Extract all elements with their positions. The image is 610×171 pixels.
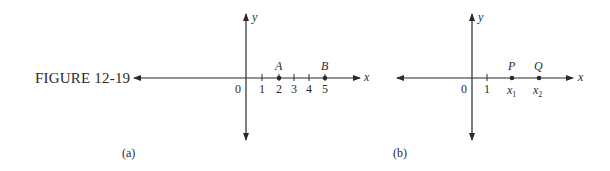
point-B xyxy=(323,76,328,81)
y-label-a: y xyxy=(252,10,257,25)
x1-label: x1 xyxy=(507,83,516,99)
y-label-b: y xyxy=(478,10,483,25)
x-label-a: x xyxy=(364,70,369,85)
point-label-A: A xyxy=(275,59,282,74)
origin-label-b: 0 xyxy=(461,82,467,97)
figure-canvas xyxy=(0,0,610,171)
tick-label: 5 xyxy=(322,82,328,97)
tick-label: 3 xyxy=(291,82,297,97)
point-label-Q: Q xyxy=(534,59,543,74)
x2-label: x2 xyxy=(533,83,542,99)
panel-b xyxy=(397,14,573,140)
tick-label: 4 xyxy=(306,82,312,97)
origin-label-a: 0 xyxy=(235,82,241,97)
point-label-B: B xyxy=(321,59,328,74)
point-P xyxy=(510,76,515,81)
caption-b: (b) xyxy=(393,146,407,161)
point-A xyxy=(277,76,282,81)
point-label-P: P xyxy=(508,59,515,74)
point-Q xyxy=(537,76,542,81)
tick-label: 1 xyxy=(484,82,490,97)
tick-label: 1 xyxy=(259,82,265,97)
panel-a xyxy=(134,14,360,140)
x-label-b: x xyxy=(578,70,583,85)
tick-label: 2 xyxy=(276,82,282,97)
caption-a: (a) xyxy=(122,146,135,161)
